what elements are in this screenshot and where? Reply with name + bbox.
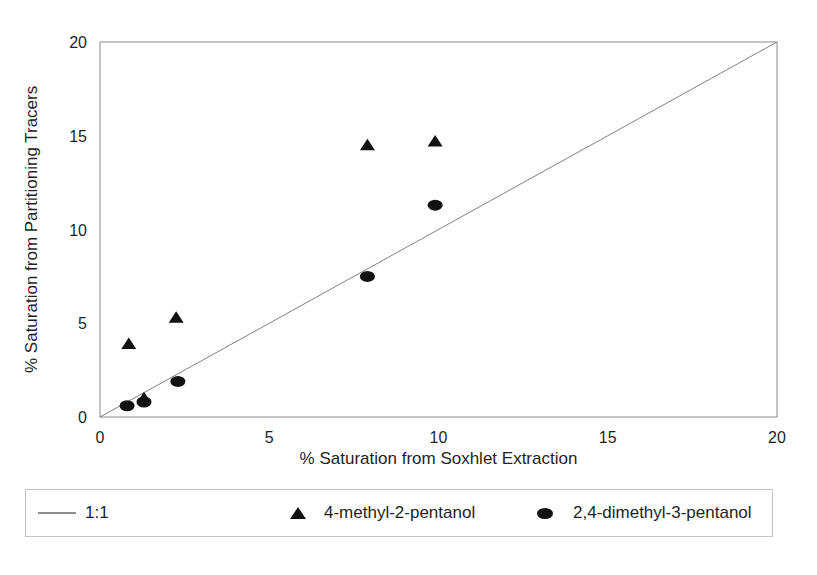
line-swatch-icon — [38, 512, 76, 514]
legend-item-circle-series: 2,4-dimethyl-3-pentanol — [537, 490, 752, 536]
circle-marker — [170, 376, 185, 387]
x-tick-label: 15 — [599, 429, 617, 446]
y-tick-label: 10 — [69, 222, 87, 239]
x-tick-label: 0 — [96, 429, 105, 446]
x-tick-label: 5 — [265, 429, 274, 446]
triangle-marker — [121, 337, 136, 349]
figure-page: % Saturation from Partitioning Tracers 0… — [0, 0, 817, 575]
circle-marker-icon — [537, 508, 553, 519]
legend: 1:1 4-methyl-2-pentanol 2,4-dimethyl-3-p… — [25, 489, 773, 537]
x-axis-label: % Saturation from Soxhlet Extraction — [100, 449, 777, 469]
legend-label-circle-series: 2,4-dimethyl-3-pentanol — [573, 503, 752, 523]
scatter-plot-canvas: 0510152005101520 — [0, 0, 817, 480]
x-tick-label: 20 — [768, 429, 786, 446]
legend-item-reference-line: 1:1 — [38, 490, 109, 536]
triangle-marker — [169, 311, 184, 323]
one-to-one-line — [100, 42, 777, 417]
legend-label-reference-line: 1:1 — [85, 503, 109, 523]
x-tick-label: 10 — [430, 429, 448, 446]
circle-marker — [360, 271, 375, 282]
triangle-marker — [360, 139, 375, 151]
y-tick-label: 5 — [78, 315, 87, 332]
y-tick-label: 0 — [78, 409, 87, 426]
circle-marker — [428, 200, 443, 211]
y-tick-label: 20 — [69, 34, 87, 51]
triangle-marker-icon — [290, 507, 306, 519]
triangle-marker — [428, 135, 443, 147]
circle-marker — [137, 397, 152, 408]
circle-marker — [120, 400, 135, 411]
legend-label-triangle-series: 4-methyl-2-pentanol — [324, 503, 475, 523]
y-tick-label: 15 — [69, 128, 87, 145]
legend-item-triangle-series: 4-methyl-2-pentanol — [290, 490, 475, 536]
